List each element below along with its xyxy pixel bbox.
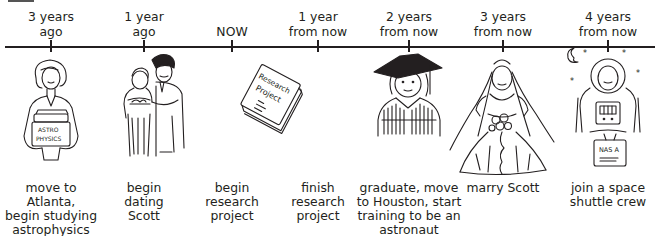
event-description: join a space shuttle crew: [543, 181, 662, 209]
tick-3-years-from-now: [502, 40, 504, 52]
time-label-line: from now: [553, 24, 662, 39]
svg-text:*: *: [636, 69, 640, 78]
research-project-illustration: Research Project: [236, 62, 306, 130]
tick-now: [231, 40, 233, 52]
tick-1-year-ago: [143, 40, 145, 52]
svg-text:PHYSICS: PHYSICS: [36, 135, 62, 142]
time-label-line: 3 years: [448, 9, 558, 24]
woman-with-books-illustration: ASTRO PHYSICS: [14, 56, 88, 168]
couple-illustration: [116, 52, 188, 160]
svg-text:*: *: [622, 49, 626, 58]
bride-illustration: [446, 54, 560, 178]
svg-text:*: *: [583, 49, 587, 58]
svg-text:ASTRO: ASTRO: [38, 126, 59, 133]
tick-3-years-ago: [50, 40, 52, 52]
timeline-axis: [5, 46, 655, 48]
time-label-line: 4 years: [553, 9, 662, 24]
time-label: 4 years from now: [553, 9, 662, 39]
svg-text:*: *: [570, 77, 574, 86]
svg-text:NAS A: NAS A: [599, 146, 620, 154]
corner-bar: [8, 0, 34, 2]
tick-1-year-from-now: [317, 40, 319, 52]
time-label: 3 years from now: [448, 9, 558, 39]
time-label-line: from now: [448, 24, 558, 39]
astronaut-illustration: * * * * NAS A: [566, 48, 650, 172]
graduate-illustration: [370, 46, 450, 136]
